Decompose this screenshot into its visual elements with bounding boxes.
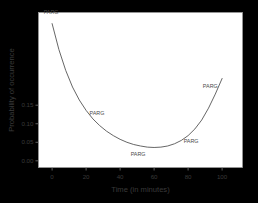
x-tick-label: 100 <box>217 173 228 180</box>
x-tick-label: 40 <box>117 173 124 180</box>
chart-figure: 020406080100 0.000.050.100.15 PARGPARGPA… <box>0 0 258 203</box>
curve-annotation-label: PARG <box>184 138 199 144</box>
y-tick-label: 0.00 <box>21 157 34 164</box>
y-tick-label: 0.15 <box>21 101 34 108</box>
x-tick-label: 20 <box>83 173 90 180</box>
x-tick-label: 60 <box>151 173 158 180</box>
x-axis-title: Time (in minutes) <box>111 185 170 194</box>
x-tick-label: 0 <box>50 173 54 180</box>
y-tick-label: 0.10 <box>21 120 34 127</box>
x-tick-label: 80 <box>185 173 192 180</box>
plot-area-background <box>39 13 243 168</box>
curve-annotation-label: PARG <box>44 9 59 15</box>
curve-annotation-label: PARG <box>131 151 146 157</box>
curve-annotation-label: PARG <box>89 110 104 116</box>
y-tick-label: 0.05 <box>21 138 34 145</box>
curve-annotation-label: PARG <box>203 83 218 89</box>
y-axis-title: Probability of occurrence <box>7 48 16 132</box>
line-chart: 020406080100 0.000.050.100.15 PARGPARGPA… <box>0 0 258 203</box>
